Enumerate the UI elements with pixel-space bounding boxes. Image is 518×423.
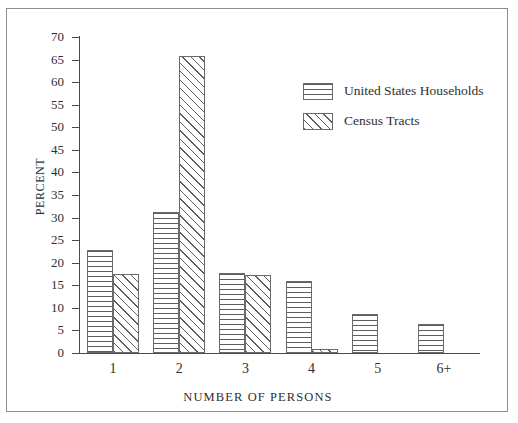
x-axis-tick-label: 3 <box>225 361 265 377</box>
y-axis-tick <box>72 308 80 309</box>
legend-label: Census Tracts <box>344 113 419 129</box>
x-axis-line <box>79 353 480 354</box>
y-axis-tick-label: 5 <box>38 323 64 336</box>
bar-4-series2 <box>312 349 338 354</box>
y-axis-tick <box>72 330 80 331</box>
x-axis-title: NUMBER OF PERSONS <box>7 390 509 405</box>
y-axis-tick <box>72 150 80 151</box>
legend-item: Census Tracts <box>303 109 493 133</box>
x-axis-tick-label: 5 <box>358 361 398 377</box>
bar-1-series1 <box>87 250 113 353</box>
x-axis-tick-label: 1 <box>93 361 133 377</box>
x-axis-tick-label: 2 <box>159 361 199 377</box>
y-axis-tick-label: 10 <box>38 301 64 314</box>
legend-swatch-2 <box>303 113 333 130</box>
y-axis-tick-label: 0 <box>38 346 64 359</box>
y-axis-tick <box>72 263 80 264</box>
y-axis-tick <box>72 240 80 241</box>
legend-item: United States Households <box>303 79 493 103</box>
y-axis-tick-label: 15 <box>38 278 64 291</box>
bar-1-series2 <box>113 274 139 353</box>
bar-6plus-series1 <box>418 324 444 353</box>
legend-label: United States Households <box>344 83 484 99</box>
y-axis-tick-label: 65 <box>38 53 64 66</box>
y-axis-tick <box>72 105 80 106</box>
y-axis-tick <box>72 285 80 286</box>
bar-3-series2 <box>245 275 271 353</box>
y-axis-tick-label: 55 <box>38 98 64 111</box>
chart-legend: United States HouseholdsCensus Tracts <box>303 79 493 139</box>
y-axis-tick-label: 25 <box>38 233 64 246</box>
y-axis-tick-label: 20 <box>38 256 64 269</box>
y-axis-tick <box>72 127 80 128</box>
y-axis-tick <box>72 60 80 61</box>
y-axis-tick-label: 50 <box>38 120 64 133</box>
legend-swatch-1 <box>303 83 333 100</box>
bar-2-series2 <box>179 56 205 353</box>
bar-5-series1 <box>352 314 378 353</box>
bar-3-series1 <box>219 273 245 353</box>
bar-2-series1 <box>153 212 179 353</box>
y-axis-title: PERCENT <box>33 142 48 232</box>
y-axis-tick-label: 70 <box>38 30 64 43</box>
bar-4-series1 <box>286 281 312 353</box>
x-axis-tick-label: 6+ <box>424 361 464 377</box>
y-axis-tick <box>72 37 80 38</box>
x-axis-tick-label: 4 <box>292 361 332 377</box>
y-axis-tick <box>72 172 80 173</box>
clipped-header-artifact: ....... .... .. <box>167 9 317 13</box>
y-axis-tick <box>72 195 80 196</box>
y-axis-tick <box>72 353 80 354</box>
y-axis-tick <box>72 82 80 83</box>
y-axis-tick-label: 60 <box>38 75 64 88</box>
y-axis-tick <box>72 218 80 219</box>
chart-figure: ....... .... .. 051015202530354045505560… <box>6 8 508 412</box>
